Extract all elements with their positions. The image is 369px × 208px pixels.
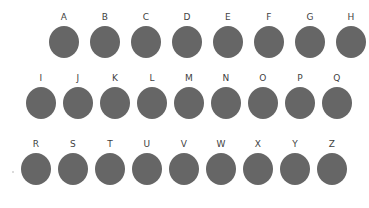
circle-label: G bbox=[306, 12, 313, 23]
circle-row-3: R S T U V W X Y bbox=[21, 139, 347, 185]
circle-row-1: A B C D E F G H bbox=[49, 12, 366, 58]
circle-label: V bbox=[181, 139, 187, 150]
circle-label: H bbox=[348, 12, 355, 23]
circle-label: W bbox=[216, 139, 225, 150]
labeled-circle[interactable]: W bbox=[206, 139, 236, 185]
circle-shape[interactable] bbox=[174, 87, 204, 119]
circle-shape[interactable] bbox=[336, 26, 366, 58]
circle-shape[interactable] bbox=[322, 87, 352, 119]
circle-label: R bbox=[33, 139, 39, 150]
circle-label: P bbox=[297, 73, 303, 84]
labeled-circle[interactable]: A bbox=[49, 12, 79, 58]
labeled-circle[interactable]: U bbox=[132, 139, 162, 185]
labeled-circle[interactable]: I bbox=[26, 73, 56, 119]
circle-shape[interactable] bbox=[254, 26, 284, 58]
circle-shape[interactable] bbox=[169, 153, 199, 185]
circle-label: U bbox=[144, 139, 151, 150]
labeled-circle[interactable]: Z bbox=[317, 139, 347, 185]
circle-label: S bbox=[70, 139, 76, 150]
circle-shape[interactable] bbox=[317, 153, 347, 185]
labeled-circle[interactable]: D bbox=[172, 12, 202, 58]
circle-label: Y bbox=[292, 139, 298, 150]
labeled-circle[interactable]: E bbox=[213, 12, 243, 58]
circle-shape[interactable] bbox=[95, 153, 125, 185]
labeled-circle[interactable]: O bbox=[248, 73, 278, 119]
circle-shape[interactable] bbox=[172, 26, 202, 58]
circle-label: D bbox=[183, 12, 190, 23]
labeled-circle[interactable]: V bbox=[169, 139, 199, 185]
labeled-circle[interactable]: L bbox=[137, 73, 167, 119]
circle-shape[interactable] bbox=[211, 87, 241, 119]
circle-label: M bbox=[185, 73, 193, 84]
circle-shape[interactable] bbox=[248, 87, 278, 119]
circle-label: L bbox=[149, 73, 154, 84]
circle-label: X bbox=[255, 139, 261, 150]
circle-shape[interactable] bbox=[213, 26, 243, 58]
circle-shape[interactable] bbox=[49, 26, 79, 58]
circle-label: K bbox=[112, 73, 118, 84]
circle-shape[interactable] bbox=[100, 87, 130, 119]
labeled-circle[interactable]: J bbox=[63, 73, 93, 119]
circle-label: C bbox=[143, 12, 149, 23]
labeled-circle[interactable]: X bbox=[243, 139, 273, 185]
circle-shape[interactable] bbox=[58, 153, 88, 185]
labeled-circle[interactable]: B bbox=[90, 12, 120, 58]
labeled-circle[interactable]: M bbox=[174, 73, 204, 119]
circle-label: A bbox=[61, 12, 67, 23]
circle-shape[interactable] bbox=[21, 153, 51, 185]
circle-label: O bbox=[259, 73, 266, 84]
circle-label: J bbox=[77, 73, 80, 84]
labeled-circle[interactable]: G bbox=[295, 12, 325, 58]
circle-shape[interactable] bbox=[206, 153, 236, 185]
circle-label: N bbox=[223, 73, 230, 84]
scan-artifact-speck bbox=[12, 171, 14, 173]
labeled-circle[interactable]: H bbox=[336, 12, 366, 58]
circle-label: F bbox=[266, 12, 271, 23]
labeled-circle[interactable]: T bbox=[95, 139, 125, 185]
labeled-circle[interactable]: S bbox=[58, 139, 88, 185]
labeled-circle[interactable]: R bbox=[21, 139, 51, 185]
labeled-circle[interactable]: Q bbox=[322, 73, 352, 119]
circle-shape[interactable] bbox=[63, 87, 93, 119]
circle-shape[interactable] bbox=[243, 153, 273, 185]
circle-shape[interactable] bbox=[137, 87, 167, 119]
circle-label: I bbox=[40, 73, 43, 84]
labeled-circle[interactable]: P bbox=[285, 73, 315, 119]
labeled-circle[interactable]: K bbox=[100, 73, 130, 119]
labeled-circle[interactable]: Y bbox=[280, 139, 310, 185]
circle-label: E bbox=[225, 12, 231, 23]
labeled-circle[interactable]: C bbox=[131, 12, 161, 58]
lettered-circle-grid: A B C D E F G H bbox=[0, 0, 369, 208]
circle-label: B bbox=[102, 12, 108, 23]
circle-shape[interactable] bbox=[295, 26, 325, 58]
circle-label: Z bbox=[329, 139, 335, 150]
circle-shape[interactable] bbox=[26, 87, 56, 119]
labeled-circle[interactable]: N bbox=[211, 73, 241, 119]
circle-shape[interactable] bbox=[90, 26, 120, 58]
circle-row-2: I J K L M N O P bbox=[26, 73, 352, 119]
circle-label: T bbox=[107, 139, 113, 150]
circle-shape[interactable] bbox=[285, 87, 315, 119]
circle-shape[interactable] bbox=[132, 153, 162, 185]
circle-shape[interactable] bbox=[131, 26, 161, 58]
circle-shape[interactable] bbox=[280, 153, 310, 185]
labeled-circle[interactable]: F bbox=[254, 12, 284, 58]
circle-label: Q bbox=[333, 73, 340, 84]
